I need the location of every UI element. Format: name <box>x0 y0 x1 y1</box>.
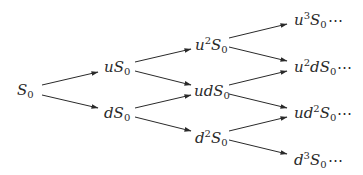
ellipsis-icon: ⋯ <box>328 151 343 169</box>
arrow-uds0-to-ud2s0 <box>229 94 287 108</box>
node-base: S <box>310 11 320 29</box>
arrow-us0-to-u2s0 <box>135 49 191 62</box>
node-prefix: u <box>294 58 304 76</box>
node-s0: S0 <box>17 83 34 100</box>
node-d3s0: d3S0⋯ <box>294 151 343 170</box>
node-subscript: 0 <box>320 19 326 30</box>
node-u3s0: u3S0⋯ <box>294 11 343 30</box>
ellipsis-icon: ⋯ <box>328 11 343 29</box>
node-prefix: u <box>104 58 114 76</box>
node-prefix: ud <box>294 104 313 122</box>
binomial-tree-diagram: S0uS0dS0u2S0udS0d2S0u3S0⋯u2dS0⋯ud2S0⋯d3S… <box>0 0 363 175</box>
node-subscript: 0 <box>124 112 130 123</box>
node-mid: d <box>310 58 320 76</box>
arrow-d2s0-to-d3s0 <box>229 140 287 154</box>
node-subscript: 0 <box>224 90 230 101</box>
node-subscript: 0 <box>124 66 130 77</box>
node-u2ds0: u2dS0⋯ <box>294 58 352 77</box>
node-prefix: d <box>294 151 304 169</box>
node-base: S <box>310 151 320 169</box>
node-base: S <box>211 129 221 147</box>
node-prefix: d <box>104 104 114 122</box>
arrow-u2s0-to-u3s0 <box>229 24 287 38</box>
node-subscript: 0 <box>330 112 336 123</box>
node-subscript: 0 <box>221 137 227 148</box>
arrow-ds0-to-d2s0 <box>135 117 191 131</box>
node-base: S <box>320 58 330 76</box>
arrow-uds0-to-u2ds0 <box>229 71 287 85</box>
node-subscript: 0 <box>330 66 336 77</box>
node-prefix: ud <box>194 82 213 100</box>
node-subscript: 0 <box>320 159 326 170</box>
arrow-d2s0-to-ud2s0 <box>229 117 287 131</box>
node-ds0: dS0 <box>104 106 130 123</box>
arrow-s0-to-us0 <box>42 72 98 85</box>
node-base: S <box>114 58 124 76</box>
node-d2s0: d2S0 <box>195 129 228 148</box>
node-base: S <box>213 82 223 100</box>
node-uds0: udS0 <box>194 84 230 101</box>
arrow-s0-to-ds0 <box>42 95 98 108</box>
ellipsis-icon: ⋯ <box>337 104 352 122</box>
node-subscript: 0 <box>27 89 33 100</box>
ellipsis-icon: ⋯ <box>337 58 352 76</box>
node-base: S <box>320 104 330 122</box>
arrow-ds0-to-uds0 <box>135 95 191 108</box>
arrow-us0-to-uds0 <box>135 71 191 85</box>
node-ud2s0: ud2S0⋯ <box>294 104 352 123</box>
node-base: S <box>17 81 27 99</box>
node-subscript: 0 <box>221 44 227 55</box>
node-prefix: d <box>195 129 205 147</box>
node-us0: uS0 <box>104 60 130 77</box>
arrow-u2s0-to-u2ds0 <box>229 47 287 61</box>
node-base: S <box>211 36 221 54</box>
node-base: S <box>114 104 124 122</box>
node-prefix: u <box>195 36 205 54</box>
node-prefix: u <box>294 11 304 29</box>
node-u2s0: u2S0 <box>195 36 228 55</box>
